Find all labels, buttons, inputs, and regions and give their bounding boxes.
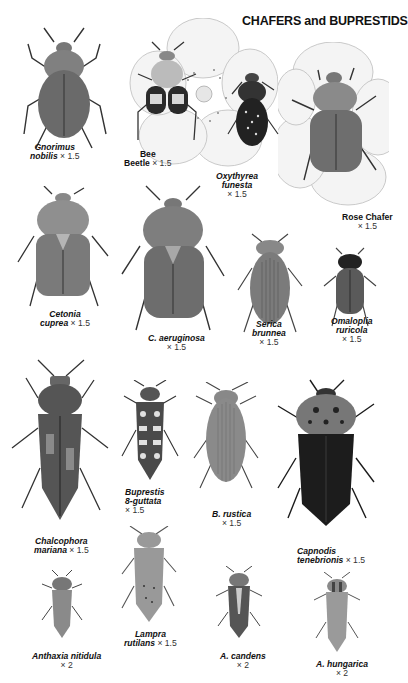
a-hungarica-illustration — [312, 572, 362, 654]
bee-beetle-illustration — [132, 40, 202, 150]
label-bee-beetle: Bee Beetle × 1.5 — [124, 150, 172, 168]
label-omaloplia-ruricola: Omaloplia ruricola × 1.5 — [331, 317, 373, 344]
b-rustica-illustration — [190, 382, 262, 494]
capnodis-tenebrionis-illustration — [274, 378, 378, 528]
oxythyrea-funesta-illustration — [222, 64, 282, 154]
buprestis-8-guttata-illustration — [118, 380, 182, 484]
label-serica-brunnea: Serica brunnea × 1.5 — [252, 320, 286, 347]
label-a-hungarica: A. hungarica × 2 — [316, 660, 368, 678]
label-gnorimus-nobilis: Gnorimus nobilis × 1.5 — [30, 143, 79, 161]
label-capnodis-tenebrionis: Capnodis tenebrionis × 1.5 — [297, 547, 365, 565]
anthaxia-nitidula-illustration — [38, 570, 86, 642]
label-buprestis-8-guttata: Buprestis 8-guttata × 1.5 — [125, 488, 165, 515]
a-candens-illustration — [214, 566, 264, 642]
label-c-aeruginosa: C. aeruginosa × 1.5 — [148, 334, 205, 352]
label-a-candens: A. candens × 2 — [220, 652, 266, 670]
lampra-rutilans-illustration — [118, 526, 180, 628]
chalcophora-mariana-illustration — [8, 358, 112, 526]
label-rose-chafer: Rose Chafer × 1.5 — [342, 213, 393, 231]
rose-chafer-illustration — [290, 60, 380, 200]
label-anthaxia-nitidula: Anthaxia nitidula × 2 — [32, 652, 101, 670]
cetonia-cuprea-illustration — [16, 186, 110, 310]
c-aeruginosa-illustration — [118, 184, 228, 334]
label-chalcophora-mariana: Chalcophora mariana × 1.5 — [34, 537, 89, 555]
label-cetonia-cuprea: Cetonia cuprea × 1.5 — [40, 310, 90, 328]
label-b-rustica: B. rustica × 1.5 — [212, 510, 251, 528]
label-lampra-rutilans: Lampra rutilans × 1.5 — [124, 630, 177, 648]
gnorimus-nobilis-illustration — [14, 24, 114, 154]
